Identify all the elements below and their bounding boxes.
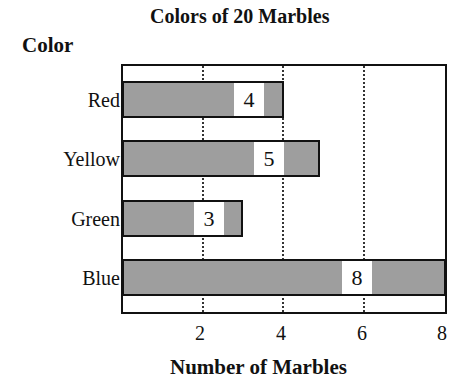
bar-blue: 8: [122, 259, 446, 296]
x-tick-4: 4: [271, 322, 291, 345]
y-axis-title: Color: [22, 33, 73, 58]
bar-value-blue: 8: [342, 261, 372, 294]
bar-red: 4: [122, 81, 284, 118]
x-tick-6: 6: [352, 322, 372, 345]
x-tick-8: 8: [432, 322, 452, 345]
plot-area: 4 5 3 8: [121, 64, 447, 314]
category-label-blue: Blue: [82, 267, 120, 290]
category-label-red: Red: [88, 89, 120, 112]
bar-green: 3: [122, 200, 243, 237]
chart-title: Colors of 20 Marbles: [150, 5, 329, 28]
x-axis-title: Number of Marbles: [170, 355, 347, 380]
bar-yellow: 5: [122, 140, 320, 177]
x-tick-2: 2: [190, 322, 210, 345]
bar-value-red: 4: [234, 83, 264, 116]
bar-value-yellow: 5: [254, 142, 284, 175]
category-label-yellow: Yellow: [63, 148, 120, 171]
bar-value-green: 3: [194, 202, 224, 235]
category-label-green: Green: [71, 208, 120, 231]
